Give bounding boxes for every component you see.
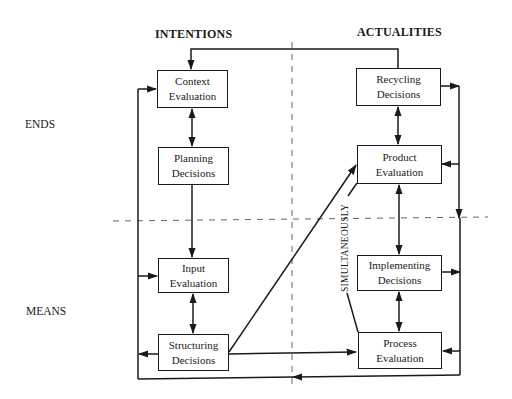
- box-label-line2: Decisions: [378, 273, 421, 288]
- box-label-line2: Evaluation: [376, 165, 424, 180]
- arrow-recycling-to-context: [191, 49, 398, 69]
- box-label-line1: Input: [182, 261, 205, 276]
- simultaneously-bracket-top: [348, 183, 357, 196]
- box-label-line1: Recycling: [376, 72, 421, 87]
- row-label-means: MEANS: [26, 305, 66, 317]
- box-recycling-decisions: Recycling Decisions: [356, 68, 441, 106]
- bottom-loop-left-segment: [138, 377, 293, 379]
- box-label-line2: Evaluation: [169, 89, 217, 104]
- bottom-loop-right-segment: [295, 375, 460, 377]
- simultaneously-bracket-bottom: [347, 293, 358, 332]
- horizontal-divider: [113, 217, 488, 221]
- box-label-line1: Planning: [174, 151, 213, 166]
- column-header-actualities: ACTUALITIES: [357, 25, 442, 40]
- box-label-line1: Process: [383, 336, 417, 351]
- row-label-ends: ENDS: [25, 118, 55, 130]
- simultaneously-annotation: SIMULTANEOUSLY: [340, 204, 350, 292]
- box-implementing-decisions: Implementing Decisions: [357, 255, 442, 291]
- arrow-structuring-to-process: [229, 352, 356, 354]
- box-context-evaluation: Context Evaluation: [157, 70, 228, 108]
- box-input-evaluation: Input Evaluation: [158, 258, 229, 293]
- box-label-line2: Evaluation: [170, 276, 218, 291]
- box-label-line1: Implementing: [369, 258, 431, 273]
- box-label-line2: Decisions: [172, 166, 215, 181]
- box-product-evaluation: Product Evaluation: [357, 145, 442, 184]
- box-label-line2: Evaluation: [376, 351, 424, 366]
- box-label-line1: Product: [382, 150, 416, 165]
- box-label-line2: Decisions: [172, 353, 215, 368]
- column-header-intentions: INTENTIONS: [155, 27, 232, 42]
- box-label-line2: Decisions: [377, 87, 420, 102]
- box-label-line1: Context: [175, 74, 210, 89]
- box-label-line1: Structuring: [169, 338, 219, 353]
- box-structuring-decisions: Structuring Decisions: [158, 334, 229, 371]
- box-planning-decisions: Planning Decisions: [158, 147, 229, 185]
- box-process-evaluation: Process Evaluation: [358, 332, 442, 369]
